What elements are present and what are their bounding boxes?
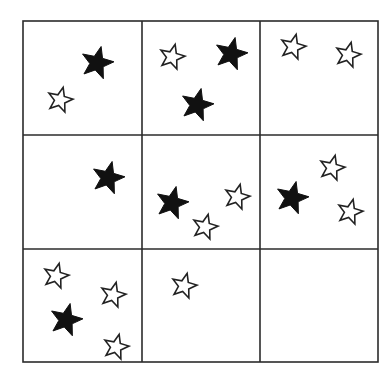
hollow-star-icon <box>161 44 185 69</box>
filled-star-icon <box>52 304 83 336</box>
stars-layer <box>45 34 363 359</box>
hollow-star-icon <box>102 282 126 307</box>
grid-cell-r1-c2 <box>278 155 363 224</box>
filled-star-icon <box>83 47 114 79</box>
filled-star-icon <box>183 89 214 121</box>
grid-cell-r0-c2 <box>282 34 361 67</box>
filled-star-icon <box>217 38 248 70</box>
hollow-star-icon <box>226 184 250 209</box>
grid-cell-r1-c0 <box>94 162 125 194</box>
grid-border <box>23 21 378 362</box>
filled-star-icon <box>94 162 125 194</box>
grid-cell-r2-c1 <box>173 273 197 298</box>
hollow-star-icon <box>321 155 345 180</box>
grid-lines <box>23 21 378 362</box>
hollow-star-icon <box>105 334 129 359</box>
hollow-star-icon <box>339 199 363 224</box>
filled-star-icon <box>278 182 309 214</box>
hollow-star-icon <box>45 263 69 288</box>
hollow-star-icon <box>173 273 197 298</box>
hollow-star-icon <box>49 87 73 112</box>
grid-cell-r0-c0 <box>49 47 114 113</box>
star-grid-figure <box>0 0 392 388</box>
grid-cell-r0-c1 <box>161 38 248 121</box>
hollow-star-icon <box>194 214 218 239</box>
hollow-star-icon <box>337 42 361 67</box>
grid-cell-r2-c0 <box>45 263 129 359</box>
filled-star-icon <box>158 187 189 219</box>
hollow-star-icon <box>282 34 306 59</box>
grid-cell-r1-c1 <box>158 184 250 239</box>
